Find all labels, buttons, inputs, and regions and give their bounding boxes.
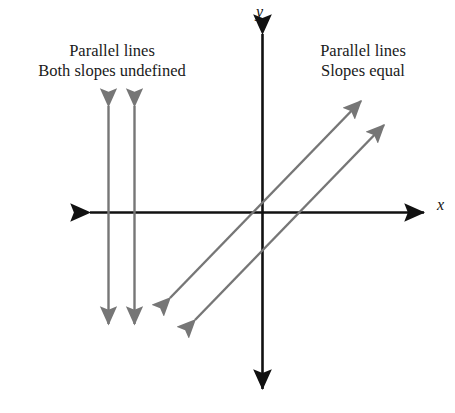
- vertical-parallel-lines-group: [109, 106, 135, 324]
- right-annotation-line-2: Slopes equal: [290, 61, 436, 81]
- x-axis-label: x: [437, 196, 444, 214]
- diagonal-line-2: [195, 125, 384, 320]
- axes-group: [90, 34, 424, 389]
- left-annotation-line-2: Both slopes undefined: [12, 61, 212, 81]
- diagonal-line-1: [170, 101, 361, 298]
- y-axis-label: y: [256, 3, 263, 21]
- diagonal-parallel-lines-group: [170, 101, 384, 320]
- figure-canvas: Parallel lines Both slopes undefined Par…: [0, 0, 455, 413]
- left-annotation: Parallel lines Both slopes undefined: [12, 41, 212, 81]
- right-annotation: Parallel lines Slopes equal: [290, 41, 436, 81]
- left-annotation-line-1: Parallel lines: [12, 41, 212, 61]
- right-annotation-line-1: Parallel lines: [290, 41, 436, 61]
